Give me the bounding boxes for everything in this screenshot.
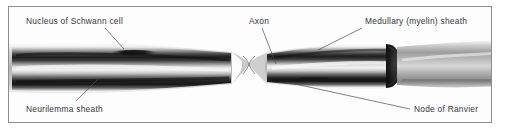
schwann-nucleus bbox=[112, 50, 156, 55]
internode-right bbox=[265, 43, 392, 88]
label-axon: Axon bbox=[249, 16, 269, 26]
label-nucleus-of-schwann-cell: Nucleus of Schwann cell bbox=[26, 16, 123, 26]
label-neurilemma-sheath: Neurilemma sheath bbox=[26, 104, 103, 114]
sheath-cylinder-right bbox=[397, 40, 503, 87]
node-of-ranvier bbox=[232, 52, 266, 84]
label-node-of-ranvier: Node of Ranvier bbox=[414, 104, 478, 114]
label-medullary-myelin-sheath: Medullary (myelin) sheath bbox=[365, 16, 467, 26]
internode-left bbox=[9, 42, 232, 93]
nerve-fiber-figure: Nucleus of Schwann cell Axon Medullary (… bbox=[0, 0, 511, 134]
